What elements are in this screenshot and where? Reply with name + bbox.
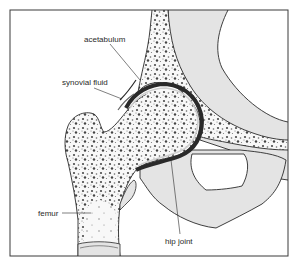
acetabulum-label: acetabulum xyxy=(84,35,126,44)
hip-joint-label: hip joint xyxy=(165,237,193,246)
synovial-fluid-label: synovial fluid xyxy=(62,78,108,87)
hip-joint-diagram: acetabulum synovial fluid femur hip join… xyxy=(0,0,298,266)
femur-label: femur xyxy=(38,209,59,218)
femur-cut-section xyxy=(78,242,120,256)
